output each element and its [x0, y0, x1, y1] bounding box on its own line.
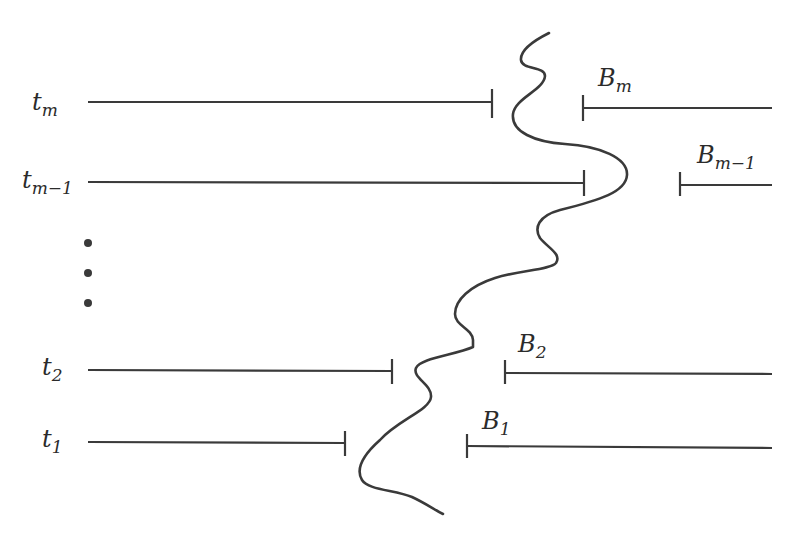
row-t1: t1 B1: [42, 407, 772, 458]
label-b1: B1: [481, 407, 510, 439]
segment-right-b1: [467, 446, 772, 448]
row-t2: t2 B2: [42, 330, 772, 385]
time-line-boundary-diagram: tm Bm tm−1 Bm−1 t2 B2 t1 B1: [0, 0, 794, 539]
segment-left-t2: [88, 370, 392, 371]
label-tm: tm: [32, 88, 58, 120]
label-t2: t2: [42, 353, 62, 385]
label-t1: t1: [42, 425, 62, 457]
row-tm: tm Bm: [32, 64, 772, 121]
label-tm-1: tm−1: [22, 166, 73, 198]
wavy-boundary-curve: [360, 33, 627, 514]
segment-right-b2: [505, 373, 772, 374]
segment-left-t1: [88, 442, 345, 443]
ellipsis-dot: [84, 239, 92, 247]
label-b2: B2: [517, 330, 546, 362]
row-tm-1: tm−1 Bm−1: [22, 141, 772, 198]
vertical-ellipsis: [84, 239, 92, 307]
label-bm-1: Bm−1: [696, 141, 756, 173]
ellipsis-dot: [84, 299, 92, 307]
segment-left-tm-1: [88, 182, 584, 183]
label-bm: Bm: [597, 64, 632, 96]
ellipsis-dot: [84, 269, 92, 277]
